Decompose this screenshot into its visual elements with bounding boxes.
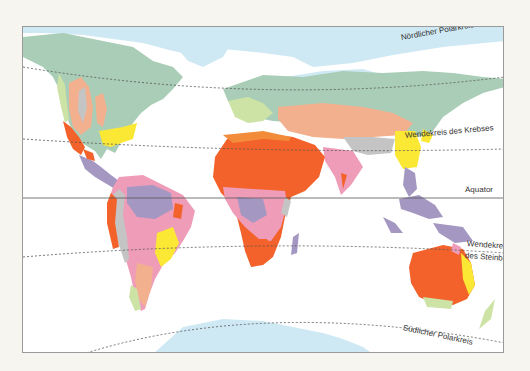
southeast-asia-islands xyxy=(383,167,473,243)
world-climate-map: Nördlicher Polarkreis Wendekreis des Kre… xyxy=(22,26,504,353)
map-canvas xyxy=(23,27,504,353)
north-america xyxy=(23,33,183,189)
label-equator: Äquator xyxy=(465,185,493,194)
antarctica xyxy=(153,319,373,353)
africa xyxy=(213,131,325,267)
south-america xyxy=(107,175,195,311)
